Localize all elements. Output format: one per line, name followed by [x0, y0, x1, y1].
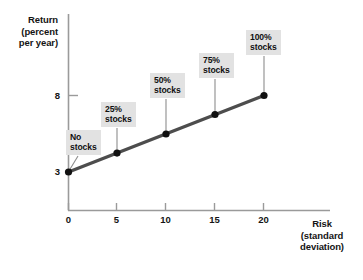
callout-no-stocks-line1: No — [70, 132, 97, 142]
callout-100-stocks-line2: stocks — [250, 42, 277, 52]
callout-100-stocks-line1: 100% — [250, 32, 277, 42]
data-point-25-stocks — [113, 149, 120, 156]
data-point-50-stocks — [162, 130, 169, 137]
y-axis-title-line1: Return — [6, 14, 58, 26]
x-axis-title: Risk (standard deviation) — [286, 218, 358, 253]
x-tick-label-15: 15 — [205, 215, 225, 225]
callout-100-stocks: 100% stocks — [246, 30, 281, 55]
callout-75-stocks: 75% stocks — [199, 53, 234, 78]
x-axis-title-line3: deviation) — [286, 241, 358, 253]
callout-25-stocks: 25% stocks — [101, 102, 136, 127]
x-axis-title-line2: (standard — [286, 230, 358, 242]
y-tick-label-8: 8 — [42, 91, 60, 101]
callout-no-stocks: No stocks — [66, 130, 101, 155]
y-axis-title-line3: per year) — [6, 37, 58, 49]
data-point-no-stocks — [65, 168, 72, 175]
x-axis-title-line1: Risk — [286, 218, 358, 230]
data-point-75-stocks — [211, 111, 218, 118]
data-point-100-stocks — [260, 92, 267, 99]
x-tick-label-10: 10 — [156, 215, 176, 225]
callout-50-stocks: 50% stocks — [150, 73, 185, 98]
callout-25-stocks-line2: stocks — [105, 114, 132, 124]
callout-25-stocks-line1: 25% — [105, 104, 132, 114]
x-tick-label-20: 20 — [254, 215, 274, 225]
risk-return-chart: Return (percent per year) Risk (standard… — [0, 0, 363, 280]
callout-75-stocks-line1: 75% — [203, 55, 230, 65]
callout-75-stocks-line2: stocks — [203, 65, 230, 75]
y-axis-title: Return (percent per year) — [6, 14, 58, 49]
callout-50-stocks-line2: stocks — [154, 85, 181, 95]
y-axis-title-line2: (percent — [6, 26, 58, 38]
callout-no-stocks-line2: stocks — [70, 142, 97, 152]
x-tick-label-5: 5 — [107, 215, 127, 225]
y-tick-label-3: 3 — [42, 167, 60, 177]
x-tick-label-0: 0 — [59, 215, 79, 225]
callout-50-stocks-line1: 50% — [154, 75, 181, 85]
